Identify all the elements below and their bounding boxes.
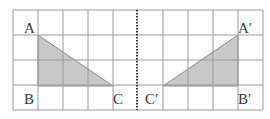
- vertex-label: A′: [238, 20, 252, 36]
- vertex-label: B′: [238, 91, 251, 107]
- reflection-diagram: ABCA′B′C′: [0, 0, 270, 119]
- vertex-label: C: [113, 91, 123, 107]
- vertex-label: C′: [145, 91, 158, 107]
- vertex-label: A: [24, 20, 35, 36]
- vertex-label: B: [24, 91, 34, 107]
